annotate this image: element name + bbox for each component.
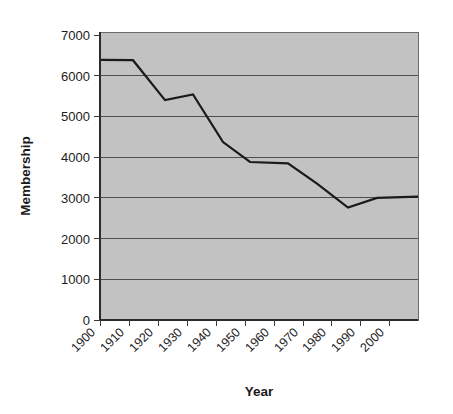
x-tick-label-1910: 1910: [98, 325, 128, 355]
y-tick-labels: 7000 6000 5000 4000 3000 2000 1000 0: [61, 28, 90, 328]
x-tick-label-1930: 1930: [156, 325, 186, 355]
x-tick-label-1960: 1960: [243, 325, 273, 355]
x-tick-marks: [100, 320, 389, 326]
chart-figure: 7000 6000 5000 4000 3000 2000 1000 0 190…: [0, 0, 453, 414]
y-axis-title: Membership: [18, 136, 33, 216]
x-tick-label-1970: 1970: [272, 325, 302, 355]
y-tick-label-4000: 4000: [61, 150, 90, 165]
y-tick-marks: [94, 35, 100, 320]
x-tick-label-1900: 1900: [69, 325, 99, 355]
y-tick-label-7000: 7000: [61, 28, 90, 43]
x-tick-labels: 1900 1910 1920 1930 1940 1950 1960 1970 …: [69, 325, 388, 355]
y-tick-label-6000: 6000: [61, 69, 90, 84]
x-tick-label-1990: 1990: [329, 325, 359, 355]
x-tick-label-1950: 1950: [214, 325, 244, 355]
membership-line-chart: 7000 6000 5000 4000 3000 2000 1000 0 190…: [0, 0, 453, 414]
x-tick-label-1940: 1940: [185, 325, 215, 355]
x-tick-label-2000: 2000: [358, 325, 388, 355]
y-tick-label-2000: 2000: [61, 232, 90, 247]
x-axis-title: Year: [245, 384, 274, 399]
y-tick-label-5000: 5000: [61, 109, 90, 124]
y-tick-label-3000: 3000: [61, 191, 90, 206]
x-tick-label-1920: 1920: [127, 325, 157, 355]
x-tick-label-1980: 1980: [300, 325, 330, 355]
y-tick-label-1000: 1000: [61, 272, 90, 287]
